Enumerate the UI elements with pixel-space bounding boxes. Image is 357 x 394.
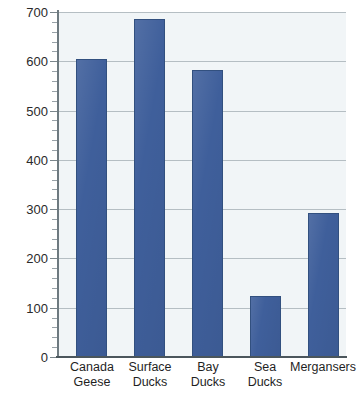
y-tick-label-200: 200 [4,252,48,265]
y-tick-label-0: 0 [4,351,48,364]
bar-sheen [135,20,164,356]
bar-sheen [251,297,280,356]
y-tick-major-600 [50,61,57,62]
bar [250,296,281,357]
y-tick-minor-580 [52,71,57,72]
x-axis-line [56,356,347,358]
y-tick-major-400 [50,160,57,161]
y-tick-minor-440 [52,140,57,141]
x-tick-label-line2: Ducks [227,375,303,390]
bars-layer [57,12,346,357]
y-tick-minor-660 [52,32,57,33]
y-tick-minor-420 [52,150,57,151]
y-tick-minor-340 [52,189,57,190]
y-tick-label-600: 600 [4,55,48,68]
bar [192,70,223,357]
y-tick-minor-360 [52,180,57,181]
y-tick-minor-480 [52,120,57,121]
y-axis-tick-labels: 0100200300400500600700 [0,12,48,357]
x-tick-label: Mergansers [285,360,357,375]
y-tick-minor-220 [52,249,57,250]
y-tick-label-500: 500 [4,105,48,118]
bar-sheen [309,214,338,356]
y-tick-minor-60 [52,327,57,328]
y-tick-major-100 [50,308,57,309]
y-tick-major-200 [50,258,57,259]
y-tick-minor-320 [52,199,57,200]
y-tick-label-400: 400 [4,154,48,167]
y-tick-minor-560 [52,81,57,82]
y-tick-minor-280 [52,219,57,220]
y-tick-minor-160 [52,278,57,279]
y-tick-label-100: 100 [4,302,48,315]
x-tick-label-line1: Bay [197,360,219,374]
y-tick-minor-640 [52,42,57,43]
y-tick-minor-120 [52,298,57,299]
y-tick-minor-540 [52,91,57,92]
bar [308,213,339,357]
y-tick-minor-460 [52,130,57,131]
y-axis-line [57,10,59,358]
bar [134,19,165,357]
y-tick-minor-680 [52,22,57,23]
y-tick-major-300 [50,209,57,210]
x-tick-label-line1: Canada [70,360,114,374]
y-tick-minor-40 [52,337,57,338]
bar-sheen [193,71,222,356]
bar [76,59,107,357]
x-tick-label-line1: Mergansers [290,360,356,374]
y-tick-minor-260 [52,229,57,230]
x-axis-tick-labels: CanadaGeeseSurfaceDucksBayDucksSeaDucksM… [57,360,346,394]
bar-sheen [77,60,106,356]
bar-chart: 0100200300400500600700 CanadaGeeseSurfac… [0,0,357,394]
x-tick-label-line1: Sea [254,360,276,374]
y-tick-minor-520 [52,101,57,102]
y-tick-minor-80 [52,318,57,319]
y-tick-minor-180 [52,268,57,269]
y-tick-minor-140 [52,288,57,289]
y-tick-minor-620 [52,51,57,52]
y-tick-minor-380 [52,170,57,171]
y-tick-label-300: 300 [4,203,48,216]
plot-area [57,12,346,357]
y-tick-major-500 [50,111,57,112]
y-tick-major-700 [50,12,57,13]
y-tick-minor-20 [52,347,57,348]
y-tick-minor-240 [52,239,57,240]
y-tick-label-700: 700 [4,6,48,19]
x-tick-label-line1: Surface [128,360,171,374]
